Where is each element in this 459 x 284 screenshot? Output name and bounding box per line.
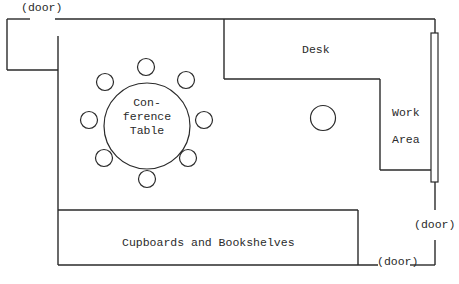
entry-alcove	[7, 19, 58, 70]
chair	[97, 74, 114, 91]
round-object	[311, 106, 336, 131]
table-label-line2: ference	[112, 111, 182, 123]
chair	[96, 150, 113, 167]
door-label-bottom: (door)	[377, 256, 418, 268]
door-label-top-left: (door)	[21, 2, 62, 14]
desk-label: Desk	[302, 44, 330, 56]
chair	[81, 112, 98, 129]
work-area-label-line2: Area	[392, 134, 420, 146]
table-label-line1: Con-	[117, 97, 177, 109]
chair	[178, 72, 195, 89]
door-label-right: (door)	[414, 219, 455, 231]
chairs	[81, 59, 213, 188]
chair	[180, 150, 197, 167]
chair	[196, 112, 213, 129]
cupboards-label: Cupboards and Bookshelves	[122, 237, 295, 249]
table-label-line3: Table	[117, 125, 177, 137]
work-area-label-line1: Work	[392, 107, 420, 119]
window-panel	[431, 33, 438, 182]
desk-outline	[224, 19, 431, 170]
chair	[139, 171, 156, 188]
chair	[138, 59, 155, 76]
